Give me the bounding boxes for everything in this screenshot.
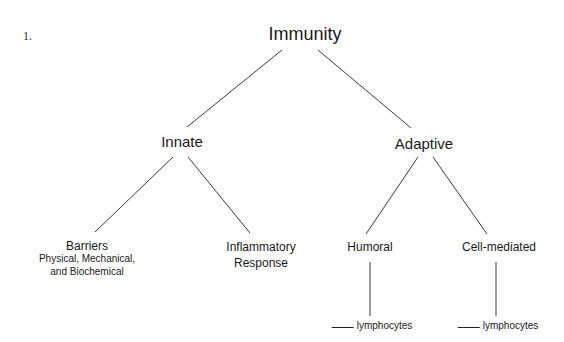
line-immunity-adaptive <box>318 50 411 128</box>
line-innate-inflammatory <box>188 157 250 233</box>
node-immunity: Immunity <box>268 25 341 45</box>
node-cellmediated-lymphocytes: lymphocytes <box>458 320 539 331</box>
node-inflammatory-response: Inflammatory Response <box>226 240 295 271</box>
line-adaptive-humoral <box>366 157 418 234</box>
barriers-label: Barriers <box>39 240 135 253</box>
inflammatory-line2: Response <box>226 256 295 272</box>
node-humoral-lymphocytes: lymphocytes <box>332 320 413 331</box>
lymphocytes-label: lymphocytes <box>357 320 413 331</box>
line-adaptive-cellmediated <box>433 157 487 234</box>
node-innate: Innate <box>161 134 203 151</box>
answer-blank[interactable] <box>332 327 354 328</box>
immunity-concept-map: 1. Immunity Innate Adaptive Barriers Phy… <box>0 0 564 342</box>
node-barriers: Barriers Physical, Mechanical, and Bioch… <box>39 240 135 278</box>
answer-blank[interactable] <box>458 327 480 328</box>
node-adaptive: Adaptive <box>395 136 453 153</box>
node-cell-mediated: Cell-mediated <box>462 241 536 254</box>
node-humoral: Humoral <box>347 241 392 254</box>
connector-lines <box>0 0 564 342</box>
lymphocytes-label: lymphocytes <box>483 320 539 331</box>
line-immunity-innate <box>187 50 282 127</box>
line-innate-barriers <box>95 157 173 232</box>
inflammatory-line1: Inflammatory <box>226 240 295 256</box>
barriers-subtitle-line1: Physical, Mechanical, <box>39 253 135 266</box>
barriers-subtitle-line2: and Biochemical <box>39 266 135 279</box>
